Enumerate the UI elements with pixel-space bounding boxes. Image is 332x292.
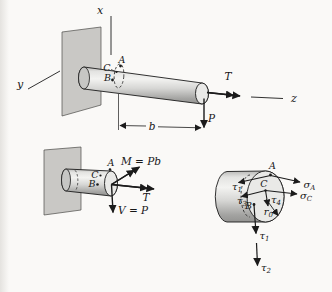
torque-arrow-second-head bbox=[207, 93, 234, 96]
z-axis-label: z bbox=[290, 92, 297, 105]
point-c-label: C bbox=[260, 178, 268, 189]
torque-label: T bbox=[143, 191, 151, 203]
y-axis-line bbox=[28, 71, 60, 89]
point-b-label: B bbox=[88, 178, 96, 189]
sigma-c-sub: C bbox=[307, 195, 313, 203]
tau-b-torsion-sub: 1 bbox=[265, 235, 269, 243]
stub-wall-end bbox=[62, 169, 71, 191]
shear-label: V = P bbox=[118, 204, 149, 216]
point-a-label: A bbox=[118, 54, 126, 65]
torque-label: T bbox=[224, 70, 232, 82]
tau-b-shear-arrow bbox=[257, 243, 258, 266]
load-label: P bbox=[207, 112, 216, 124]
tau-b-torsion-label: τ1 bbox=[260, 230, 270, 243]
tau-a-sub: 1 bbox=[238, 186, 242, 194]
point-b-label: B bbox=[103, 72, 111, 83]
moment-label: M = Pb bbox=[120, 155, 161, 167]
point-b-dot bbox=[96, 183, 99, 186]
shaft-free-end-face bbox=[196, 83, 209, 104]
tau-b-shear-label: τ2 bbox=[261, 262, 272, 275]
section-figure: A σA τ1 C σC τ3 τ4 r0 B τ1 τ2 bbox=[215, 160, 315, 276]
point-b-label: B bbox=[244, 200, 252, 211]
shaft-wall-end bbox=[79, 67, 90, 89]
figure-page: x y A C B T z P bbox=[0, 0, 332, 292]
tau-c-vertical-sub: 4 bbox=[276, 199, 281, 207]
point-c-dot bbox=[115, 71, 117, 73]
tau-b-shear-sub: 2 bbox=[266, 267, 272, 275]
point-a-dot bbox=[109, 168, 112, 171]
point-a-label: A bbox=[107, 157, 115, 168]
radius-sub: 0 bbox=[269, 211, 274, 219]
cut-face bbox=[105, 171, 118, 196]
top-figure: x y A C B T z P bbox=[16, 4, 297, 132]
sigma-a-sub: A bbox=[309, 184, 315, 192]
z-axis-line bbox=[251, 97, 283, 99]
y-axis-label: y bbox=[16, 78, 24, 91]
point-a-dot bbox=[119, 65, 122, 68]
mechanics-diagram: x y A C B T z P bbox=[0, 0, 332, 292]
point-c-dot bbox=[99, 174, 101, 176]
cut-figure: A C B M = Pb T V = P bbox=[44, 147, 161, 216]
x-axis-label: x bbox=[97, 4, 104, 17]
point-a-label: A bbox=[268, 160, 276, 171]
dimension-arrow-right bbox=[158, 127, 201, 128]
dimension-arrow-left bbox=[120, 126, 146, 127]
dimension-label: b bbox=[149, 120, 156, 132]
point-b-dot bbox=[111, 79, 114, 82]
